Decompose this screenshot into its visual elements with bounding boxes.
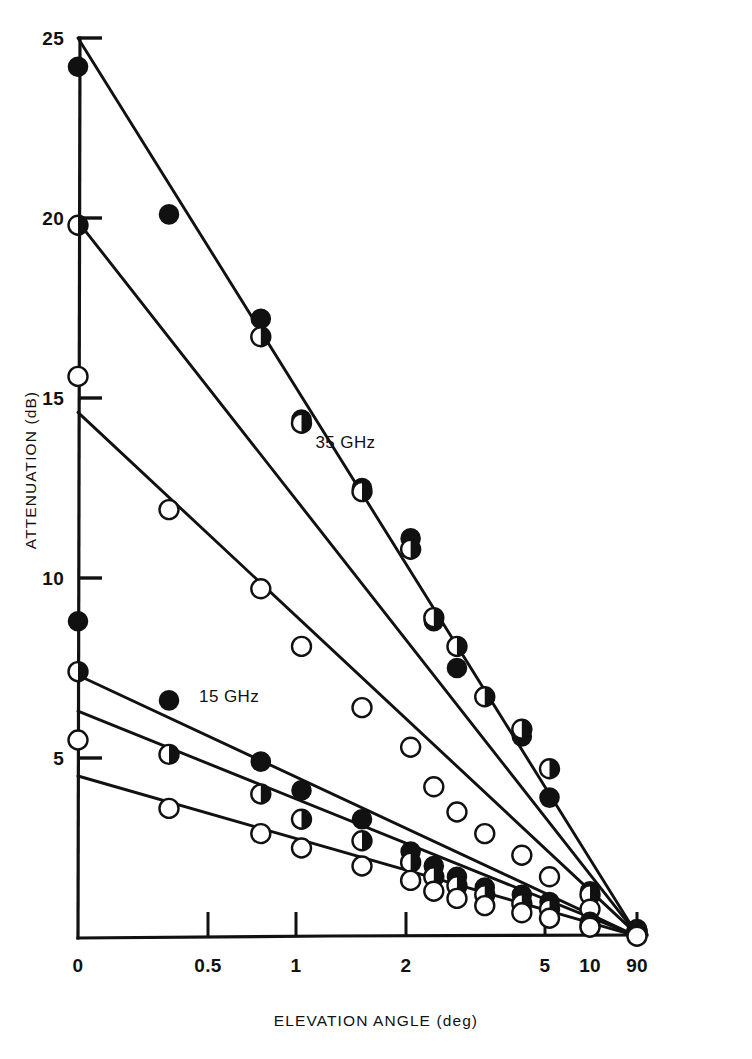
data-point (353, 831, 372, 850)
data-point (69, 662, 88, 681)
x-tick-label-10: 10 (579, 955, 601, 976)
data-point (160, 745, 179, 764)
data-point (401, 738, 420, 757)
data-point (447, 803, 466, 822)
open-circle-marker (512, 903, 531, 922)
data-point (251, 309, 270, 328)
filled-circle-marker (251, 309, 270, 328)
filled-circle-marker (160, 691, 179, 710)
data-point (475, 896, 494, 915)
open-circle-marker (424, 777, 443, 796)
data-point (292, 781, 311, 800)
data-point (251, 785, 270, 804)
y-axis-tick-labels: 510152025 (42, 28, 64, 769)
data-point (540, 909, 559, 928)
data-point (628, 927, 647, 946)
open-circle-marker (353, 698, 372, 717)
y-tick-label-25: 25 (42, 28, 64, 49)
x-axis-line (78, 935, 647, 938)
data-point (540, 867, 559, 886)
open-circle-marker (401, 738, 420, 757)
x-axis-title: ELEVATION ANGLE (deg) (274, 1012, 478, 1029)
data-point (160, 799, 179, 818)
data-point (292, 810, 311, 829)
data-point (447, 637, 466, 656)
open-circle-marker (69, 731, 88, 750)
data-point (447, 659, 466, 678)
attenuation-vs-elevation-chart: 510152025 00.51251090 35 GHz15 GHz ATTEN… (0, 0, 752, 1059)
filled-circle-marker (353, 810, 372, 829)
x-tick-label-0: 0 (73, 955, 84, 976)
x-tick-label-5: 5 (540, 955, 551, 976)
data-point (581, 918, 600, 937)
y-tick-label-5: 5 (53, 748, 64, 769)
data-point (292, 839, 311, 858)
y-tick-label-10: 10 (42, 568, 64, 589)
data-point (512, 720, 531, 739)
data-point (512, 846, 531, 865)
data-point (401, 871, 420, 890)
data-point (424, 608, 443, 627)
open-circle-marker (251, 579, 270, 598)
open-circle-marker (353, 857, 372, 876)
open-circle-marker (581, 918, 600, 937)
data-point (69, 367, 88, 386)
x-axis-ticks (208, 912, 637, 936)
data-point (251, 824, 270, 843)
data-point (251, 327, 270, 346)
data-point (401, 540, 420, 559)
x-tick-label-2: 2 (401, 955, 412, 976)
x-tick-label-1: 1 (291, 955, 302, 976)
data-point (292, 414, 311, 433)
x-tick-label-0.5: 0.5 (194, 955, 221, 976)
data-point (353, 857, 372, 876)
filled-circle-marker (447, 659, 466, 678)
data-point (69, 612, 88, 631)
data-point (475, 687, 494, 706)
open-circle-marker (292, 637, 311, 656)
open-circle-marker (475, 824, 494, 843)
data-point (540, 759, 559, 778)
open-circle-marker (447, 889, 466, 908)
data-point (292, 637, 311, 656)
data-point (512, 903, 531, 922)
data-point (160, 691, 179, 710)
open-circle-marker (251, 824, 270, 843)
open-circle-marker (475, 896, 494, 915)
filled-circle-marker (160, 205, 179, 224)
figure-container: 510152025 00.51251090 35 GHz15 GHz ATTEN… (0, 0, 752, 1059)
y-tick-label-15: 15 (42, 388, 64, 409)
open-circle-marker (160, 799, 179, 818)
data-point (353, 698, 372, 717)
open-circle-marker (401, 871, 420, 890)
open-circle-marker (424, 882, 443, 901)
filled-circle-marker (69, 57, 88, 76)
data-point (447, 889, 466, 908)
series-annotation-0: 35 GHz (315, 433, 375, 452)
y-axis-line (78, 38, 80, 938)
open-circle-marker (540, 909, 559, 928)
filled-circle-marker (540, 788, 559, 807)
data-point (251, 579, 270, 598)
x-tick-label-90: 90 (626, 955, 648, 976)
data-point (69, 731, 88, 750)
y-tick-label-20: 20 (42, 208, 64, 229)
data-point (353, 482, 372, 501)
data-point (424, 777, 443, 796)
y-axis-title: ATTENUATION (dB) (22, 391, 39, 549)
data-point (69, 57, 88, 76)
open-circle-marker (447, 803, 466, 822)
open-circle-marker (69, 367, 88, 386)
y-axis-ticks (78, 38, 102, 758)
open-circle-marker (292, 839, 311, 858)
open-circle-marker (540, 867, 559, 886)
data-point (475, 824, 494, 843)
filled-circle-marker (292, 781, 311, 800)
data-point (401, 853, 420, 872)
data-point (69, 216, 88, 235)
data-point (353, 810, 372, 829)
data-point (424, 882, 443, 901)
filled-circle-marker (251, 752, 270, 771)
series-annotation-1: 15 GHz (199, 687, 259, 706)
data-point (251, 752, 270, 771)
